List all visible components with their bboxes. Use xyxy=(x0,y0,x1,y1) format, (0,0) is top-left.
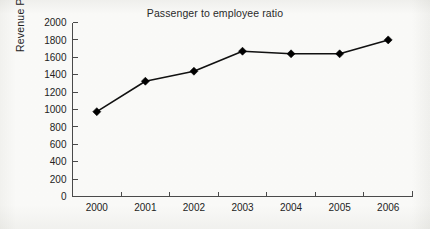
x-axis-ticks: 2000200120022003200420052006 xyxy=(86,192,400,213)
chart-figure: Passenger to employee ratio Revenue Pass… xyxy=(0,0,430,229)
chart-plot-area: 0200400600800100012001400160018002000 20… xyxy=(0,0,430,229)
y-tick-label: 2000 xyxy=(44,17,67,28)
y-tick-label: 1000 xyxy=(44,104,67,115)
data-point-markers xyxy=(93,36,392,116)
y-tick-label: 0 xyxy=(61,191,67,202)
y-tick-label: 1200 xyxy=(44,87,67,98)
x-tick-label: 2000 xyxy=(86,202,109,213)
y-tick-label: 400 xyxy=(50,156,67,167)
data-point-marker xyxy=(239,47,247,55)
data-point-marker xyxy=(336,50,344,58)
data-point-marker xyxy=(287,50,295,58)
x-tick-label: 2006 xyxy=(377,202,400,213)
data-point-marker xyxy=(141,77,149,85)
y-tick-label: 800 xyxy=(50,122,67,133)
data-point-marker xyxy=(93,108,101,116)
y-tick-label: 200 xyxy=(50,174,67,185)
data-point-marker xyxy=(384,36,392,44)
x-tick-label: 2001 xyxy=(134,202,157,213)
y-tick-label: 1600 xyxy=(44,52,67,63)
x-tick-label: 2005 xyxy=(329,202,352,213)
x-tick-label: 2004 xyxy=(280,202,303,213)
x-tick-label: 2003 xyxy=(231,202,254,213)
data-point-marker xyxy=(190,67,198,75)
y-tick-label: 600 xyxy=(50,139,67,150)
y-tick-label: 1800 xyxy=(44,35,67,46)
y-tick-label: 1400 xyxy=(44,69,67,80)
x-tick-label: 2002 xyxy=(183,202,206,213)
